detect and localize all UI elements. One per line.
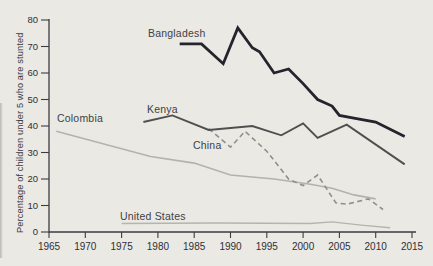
- series-label-united-states: United States: [120, 210, 186, 222]
- x-tick-label: 1975: [110, 241, 133, 252]
- y-axis-title: Percentage of children under 5 who are s…: [15, 33, 25, 233]
- page-edge-shadow: [0, 103, 3, 258]
- y-tick-label: 0: [33, 226, 38, 237]
- y-tick-label: 60: [27, 67, 38, 78]
- scanned-chart-figure: 0102030405060708019651970197519801985199…: [0, 0, 433, 266]
- y-tick-label: 70: [27, 41, 38, 52]
- series-line-china: [209, 129, 383, 210]
- series-line-bangladesh: [180, 28, 405, 137]
- x-tick-label: 2010: [365, 241, 388, 252]
- series-label-china: China: [193, 139, 221, 151]
- series-label-bangladesh: Bangladesh: [148, 27, 205, 39]
- x-tick-label: 1980: [147, 241, 170, 252]
- x-tick-label: 1965: [38, 241, 61, 252]
- x-tick-label: 2015: [401, 241, 424, 252]
- stunting-line-chart: 0102030405060708019651970197519801985199…: [0, 0, 433, 266]
- x-tick-label: 1985: [183, 241, 206, 252]
- y-tick-label: 20: [27, 173, 38, 184]
- x-tick-label: 1995: [256, 241, 279, 252]
- x-tick-label: 2005: [328, 241, 351, 252]
- y-tick-label: 10: [27, 200, 38, 211]
- y-tick-label: 30: [27, 147, 38, 158]
- y-tick-label: 80: [27, 14, 38, 25]
- series-label-colombia: Colombia: [57, 112, 103, 124]
- x-tick-label: 1990: [219, 241, 242, 252]
- y-tick-label: 50: [27, 94, 38, 105]
- y-tick-label: 40: [27, 120, 38, 131]
- series-label-kenya: Kenya: [147, 103, 178, 115]
- x-tick-label: 2000: [292, 241, 315, 252]
- series-line-united-states: [122, 222, 391, 228]
- series-line-kenya: [143, 115, 404, 164]
- x-tick-label: 1970: [74, 241, 97, 252]
